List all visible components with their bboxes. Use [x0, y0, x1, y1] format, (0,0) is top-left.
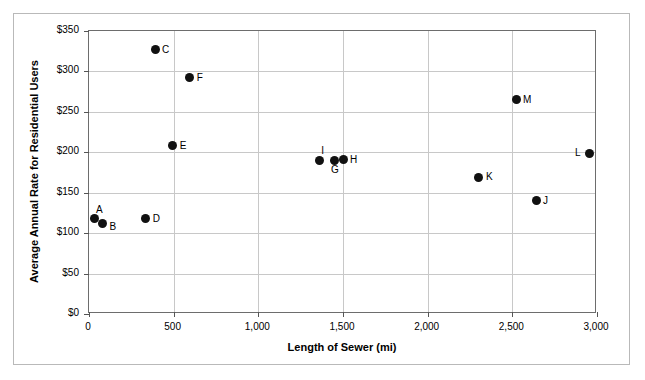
y-axis-tick — [84, 112, 89, 113]
data-point-label-k: K — [486, 172, 493, 182]
gridline-vertical — [258, 31, 259, 312]
x-axis-tick-label: 0 — [85, 322, 91, 332]
y-axis-tick-label: $50 — [0, 268, 79, 278]
x-axis-tick — [258, 312, 259, 317]
data-point-d[interactable] — [141, 214, 150, 223]
data-point-label-j: J — [543, 196, 548, 206]
data-point-l[interactable] — [585, 149, 594, 158]
x-axis-tick — [428, 312, 429, 317]
x-axis-tick-label: 1,000 — [245, 322, 270, 332]
y-axis-tick-label: $200 — [0, 146, 79, 156]
x-axis-tick — [512, 312, 513, 317]
data-point-label-h: H — [350, 155, 357, 165]
data-point-label-g: G — [331, 165, 339, 175]
data-point-label-a: A — [96, 205, 103, 215]
data-point-j[interactable] — [532, 196, 541, 205]
y-axis-tick-label: $150 — [0, 187, 79, 197]
gridline-horizontal — [89, 152, 595, 153]
x-axis-tick — [597, 312, 598, 317]
y-axis-tick — [84, 233, 89, 234]
data-point-label-f: F — [197, 73, 203, 83]
x-axis-tick-label: 2,000 — [414, 322, 439, 332]
y-axis-tick-label: $0 — [0, 308, 79, 318]
data-point-c[interactable] — [151, 45, 160, 54]
gridline-horizontal — [89, 193, 595, 194]
data-point-label-c: C — [162, 45, 169, 55]
x-axis-tick-label: 3,000 — [583, 322, 608, 332]
data-point-label-e: E — [180, 141, 187, 151]
y-axis-tick-label: $350 — [0, 25, 79, 35]
x-axis-tick — [174, 312, 175, 317]
gridline-horizontal — [89, 71, 595, 72]
data-point-m[interactable] — [512, 95, 521, 104]
y-axis-tick — [84, 274, 89, 275]
x-axis-tick — [89, 312, 90, 317]
gridline-vertical — [512, 31, 513, 312]
y-axis-tick-label: $100 — [0, 227, 79, 237]
data-point-b[interactable] — [98, 219, 107, 228]
data-point-label-d: D — [153, 214, 160, 224]
y-axis-tick — [84, 31, 89, 32]
x-axis-tick-label: 1,500 — [329, 322, 354, 332]
y-axis-tick — [84, 71, 89, 72]
x-axis-tick — [343, 312, 344, 317]
data-point-label-i: I — [321, 146, 324, 156]
y-axis-tick-label: $300 — [0, 65, 79, 75]
gridline-vertical — [174, 31, 175, 312]
gridline-horizontal — [89, 233, 595, 234]
data-point-h[interactable] — [339, 155, 348, 164]
data-point-label-m: M — [523, 95, 531, 105]
gridline-horizontal — [89, 274, 595, 275]
y-axis-tick — [84, 152, 89, 153]
x-axis-tick-label: 2,500 — [499, 322, 524, 332]
x-axis-title: Length of Sewer (mi) — [88, 341, 596, 353]
data-point-f[interactable] — [185, 73, 194, 82]
gridline-vertical — [428, 31, 429, 312]
data-point-k[interactable] — [474, 173, 483, 182]
y-axis-tick-label: $250 — [0, 106, 79, 116]
data-point-i[interactable] — [315, 156, 324, 165]
scatter-plot-figure: Average Annual Rate for Residential User… — [0, 0, 645, 380]
gridline-vertical — [343, 31, 344, 312]
data-point-label-b: B — [110, 222, 117, 232]
x-axis-tick-label: 500 — [164, 322, 181, 332]
data-point-label-l: L — [575, 148, 581, 158]
y-axis-tick — [84, 193, 89, 194]
plot-area: ABCDEFGHIJKLM — [88, 30, 596, 313]
gridline-horizontal — [89, 112, 595, 113]
data-point-e[interactable] — [168, 141, 177, 150]
